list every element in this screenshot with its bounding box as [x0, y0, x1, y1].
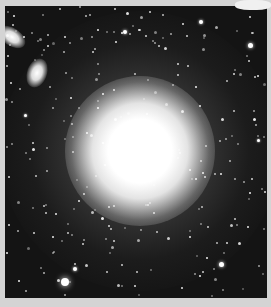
star — [199, 275, 201, 277]
star — [29, 158, 31, 160]
star — [25, 290, 27, 292]
star — [12, 24, 14, 26]
star — [61, 240, 63, 242]
star — [85, 264, 88, 267]
star — [257, 135, 259, 137]
star — [222, 289, 224, 291]
star — [204, 176, 206, 178]
star — [113, 89, 115, 91]
border-smudge — [235, 0, 271, 10]
star — [124, 227, 126, 229]
bright-star — [199, 20, 203, 24]
star — [220, 173, 222, 175]
star — [263, 83, 266, 86]
star — [47, 34, 49, 36]
star — [28, 124, 30, 126]
star — [255, 124, 257, 126]
star — [52, 42, 55, 45]
star — [8, 224, 10, 226]
galaxy-core — [65, 76, 215, 226]
star — [203, 37, 205, 39]
star — [10, 82, 12, 84]
star — [113, 205, 115, 207]
star — [76, 179, 78, 181]
star — [200, 160, 202, 162]
star — [170, 33, 172, 35]
star — [91, 36, 93, 38]
star — [117, 284, 120, 287]
star — [6, 65, 8, 67]
star — [83, 239, 85, 241]
star — [71, 77, 73, 79]
star — [110, 228, 112, 230]
star — [187, 65, 189, 67]
star — [6, 252, 8, 254]
star — [167, 237, 170, 240]
bright-star — [24, 114, 27, 117]
star — [202, 271, 204, 273]
star — [92, 51, 94, 53]
star — [31, 32, 33, 34]
bright-star — [257, 139, 260, 142]
star — [78, 107, 80, 109]
star — [206, 257, 208, 259]
star — [7, 55, 9, 57]
star — [139, 29, 141, 31]
bright-star — [219, 262, 224, 267]
star — [46, 147, 48, 149]
star — [177, 157, 179, 159]
star — [248, 60, 250, 62]
star — [43, 49, 45, 51]
star — [246, 55, 248, 57]
star — [134, 285, 136, 287]
star — [258, 265, 260, 267]
star — [42, 14, 44, 16]
bright-star — [61, 278, 69, 286]
star — [43, 272, 45, 274]
star — [146, 113, 148, 115]
star — [19, 88, 21, 90]
star — [251, 178, 253, 180]
star — [39, 38, 42, 41]
star — [9, 44, 11, 46]
bright-star — [248, 43, 253, 48]
star — [263, 228, 265, 230]
companion-galaxy-1 — [5, 21, 29, 53]
star — [195, 178, 197, 180]
star — [114, 8, 116, 10]
star — [162, 37, 164, 39]
star — [177, 63, 179, 65]
star — [86, 186, 88, 188]
star — [126, 12, 129, 15]
star — [59, 8, 61, 10]
star — [17, 230, 19, 232]
star — [221, 118, 224, 121]
star — [136, 271, 138, 273]
star — [226, 80, 228, 82]
star — [181, 287, 183, 289]
star — [15, 30, 17, 32]
star — [242, 288, 244, 290]
star — [23, 36, 25, 38]
star — [196, 255, 198, 257]
star — [7, 11, 9, 13]
star — [106, 271, 108, 273]
star — [149, 11, 151, 13]
star — [73, 208, 75, 210]
star — [64, 294, 66, 296]
star — [78, 200, 80, 202]
star — [236, 224, 238, 226]
star — [57, 279, 60, 282]
star — [70, 115, 72, 117]
star — [200, 223, 202, 225]
star — [85, 15, 87, 17]
star — [153, 212, 155, 214]
star — [41, 54, 43, 56]
star — [167, 146, 170, 149]
star — [238, 242, 241, 245]
star — [74, 263, 76, 265]
star — [213, 268, 215, 270]
star — [243, 181, 245, 183]
star — [69, 281, 71, 283]
star — [189, 230, 191, 232]
